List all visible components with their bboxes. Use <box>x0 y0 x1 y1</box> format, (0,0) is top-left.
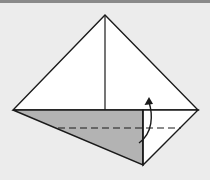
origami-diagram <box>0 0 210 180</box>
fold-diagram-svg <box>0 0 210 180</box>
shaded-flap <box>13 110 143 165</box>
